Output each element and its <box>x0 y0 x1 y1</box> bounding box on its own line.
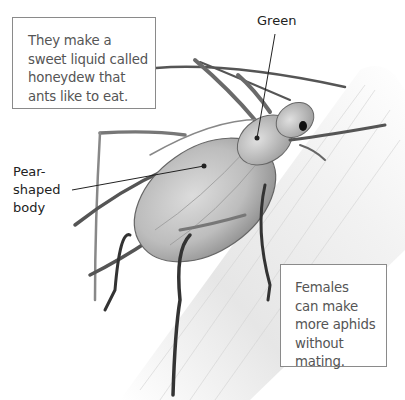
fact-line: sweet liquid called <box>28 51 155 70</box>
fact-line: ants like to eat. <box>28 88 155 107</box>
aphid-diagram: Green Pear- shaped body They make a swee… <box>0 0 405 400</box>
fact-line: honeydew that <box>28 69 155 88</box>
label-line: Pear- <box>13 163 60 181</box>
fact-line: They make a <box>28 32 155 51</box>
pear-shaped-body-label: Pear- shaped body <box>13 163 60 217</box>
fact-line: mating. <box>295 353 386 372</box>
fact-line: more aphids <box>295 316 386 335</box>
green-label: Green <box>257 12 296 30</box>
aphid-eye <box>299 121 307 131</box>
fact-line: without <box>295 335 386 354</box>
fact-line: Females <box>295 279 386 298</box>
label-line: shaped <box>13 181 60 199</box>
honeydew-fact-box: They make a sweet liquid called honeydew… <box>12 17 156 109</box>
label-line: body <box>13 199 60 217</box>
fact-line: can make <box>295 298 386 317</box>
females-fact-box: Females can make more aphids without mat… <box>280 264 387 367</box>
